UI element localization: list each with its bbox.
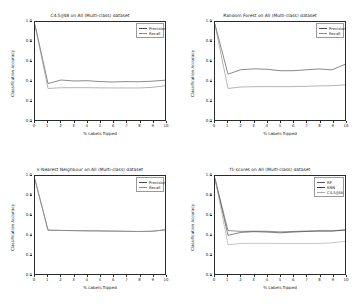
x-tick-label: 4 xyxy=(262,124,272,128)
x-tick-label: 7 xyxy=(121,278,131,282)
y-tick-mark xyxy=(30,121,32,122)
legend-line-icon xyxy=(317,187,325,188)
x-tick-label: 8 xyxy=(135,124,145,128)
x-tick-label: 2 xyxy=(235,278,245,282)
legend: PrecisionRecall xyxy=(136,177,164,192)
legend-line-icon xyxy=(139,182,147,183)
x-tick-label: 10 xyxy=(341,278,351,282)
x-tick-label: 8 xyxy=(135,278,145,282)
legend-line-icon xyxy=(317,192,325,193)
x-tick-label: 6 xyxy=(288,278,298,282)
subplot-top-left: C4.5/J48 on All (Multi-class) datasetCla… xyxy=(0,0,180,154)
x-tick-label: 3 xyxy=(249,124,259,128)
x-tick-label: 8 xyxy=(315,278,325,282)
x-axis-ticks: 012345678910 xyxy=(214,121,346,131)
y-tick-mark xyxy=(210,255,212,256)
x-tick-label: 2 xyxy=(235,124,245,128)
y-tick-mark xyxy=(210,101,212,102)
y-tick-mark xyxy=(210,121,212,122)
legend-line-icon xyxy=(317,182,325,183)
x-tick-label: 9 xyxy=(148,124,158,128)
x-axis-ticks: 012345678910 xyxy=(34,121,166,131)
x-tick-label: 1 xyxy=(42,278,52,282)
y-tick-mark xyxy=(30,41,32,42)
y-tick-mark xyxy=(30,81,32,82)
x-tick-label: 6 xyxy=(108,278,118,282)
y-tick-mark xyxy=(30,255,32,256)
x-tick-label: 10 xyxy=(341,124,351,128)
y-tick-mark xyxy=(210,81,212,82)
x-tick-label: 3 xyxy=(69,124,79,128)
x-axis-ticks: 012345678910 xyxy=(214,275,346,285)
x-tick-label: 0 xyxy=(209,124,219,128)
y-tick-mark xyxy=(30,175,32,176)
x-tick-label: 5 xyxy=(95,124,105,128)
legend-label: Recall xyxy=(329,31,340,36)
x-tick-label: 2 xyxy=(55,278,65,282)
y-axis-ticks: 1.00.80.60.40.20.0 xyxy=(16,175,32,275)
y-tick-mark xyxy=(210,21,212,22)
legend-label: Recall xyxy=(149,185,160,190)
y-axis-ticks: 1.00.80.60.40.20.0 xyxy=(16,21,32,121)
x-tick-label: 1 xyxy=(42,124,52,128)
legend-label: Recall xyxy=(149,31,160,36)
x-tick-label: 4 xyxy=(262,278,272,282)
legend: RFKNNC4.5/J48 xyxy=(314,177,344,197)
legend-line-icon xyxy=(319,28,327,29)
legend-line-icon xyxy=(139,28,147,29)
x-axis-label: % Labels flipped xyxy=(34,285,166,290)
y-tick-mark xyxy=(30,215,32,216)
x-tick-label: 10 xyxy=(161,278,171,282)
x-tick-label: 5 xyxy=(275,124,285,128)
x-tick-label: 1 xyxy=(222,124,232,128)
x-tick-label: 5 xyxy=(275,278,285,282)
legend-item[interactable]: Recall xyxy=(319,31,341,36)
y-tick-mark xyxy=(30,235,32,236)
legend-item[interactable]: Recall xyxy=(139,185,161,190)
y-tick-mark xyxy=(30,61,32,62)
subplot-bottom-left: k-Nearest Neighbour on All (Multi-class)… xyxy=(0,154,180,308)
x-tick-label: 3 xyxy=(249,278,259,282)
legend-label: C4.5/J48 xyxy=(327,190,343,195)
y-tick-mark xyxy=(30,195,32,196)
legend-line-icon xyxy=(139,33,147,34)
subplot-bottom-right: f1-scores on All (Multi-class) datasetCl… xyxy=(180,154,360,308)
x-tick-label: 0 xyxy=(29,124,39,128)
x-tick-label: 7 xyxy=(121,124,131,128)
x-tick-label: 9 xyxy=(328,278,338,282)
x-tick-label: 0 xyxy=(29,278,39,282)
x-tick-label: 9 xyxy=(328,124,338,128)
x-tick-label: 4 xyxy=(82,278,92,282)
legend-item[interactable]: C4.5/J48 xyxy=(317,190,341,195)
x-axis-ticks: 012345678910 xyxy=(34,275,166,285)
y-tick-mark xyxy=(210,215,212,216)
y-tick-mark xyxy=(210,61,212,62)
legend: PrecisionRecall xyxy=(316,23,344,38)
y-tick-mark xyxy=(210,175,212,176)
y-tick-mark xyxy=(210,275,212,276)
legend-item[interactable]: Recall xyxy=(139,31,161,36)
x-tick-label: 10 xyxy=(161,124,171,128)
y-tick-mark xyxy=(210,235,212,236)
y-tick-mark xyxy=(30,101,32,102)
x-tick-label: 0 xyxy=(209,278,219,282)
x-axis-label: % Labels flipped xyxy=(214,131,346,136)
x-tick-label: 1 xyxy=(222,278,232,282)
y-tick-mark xyxy=(210,195,212,196)
x-tick-label: 9 xyxy=(148,278,158,282)
x-tick-label: 6 xyxy=(288,124,298,128)
x-axis-label: % Labels flipped xyxy=(34,131,166,136)
x-tick-label: 5 xyxy=(95,278,105,282)
x-tick-label: 7 xyxy=(301,124,311,128)
figure-canvas: C4.5/J48 on All (Multi-class) datasetCla… xyxy=(0,0,360,308)
legend: PrecisionRecall xyxy=(136,23,164,38)
y-tick-mark xyxy=(30,21,32,22)
y-axis-ticks: 1.00.80.60.40.20.0 xyxy=(196,21,212,121)
x-tick-label: 7 xyxy=(301,278,311,282)
legend-line-icon xyxy=(139,187,147,188)
y-tick-mark xyxy=(30,275,32,276)
x-tick-label: 3 xyxy=(69,278,79,282)
x-axis-label: % Labels flipped xyxy=(214,285,346,290)
y-tick-mark xyxy=(210,41,212,42)
legend-line-icon xyxy=(319,33,327,34)
